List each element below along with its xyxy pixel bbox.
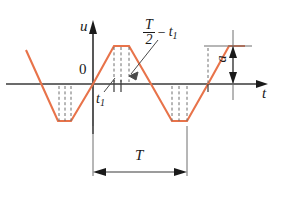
period-arrow-right-icon bbox=[174, 168, 187, 176]
origin-label: 0 bbox=[79, 62, 87, 77]
subtracted-term: t1 bbox=[169, 25, 178, 41]
leader-arrow-icon bbox=[129, 72, 138, 80]
period-label: T bbox=[135, 148, 143, 163]
amplitude-arrow-up-icon bbox=[229, 46, 237, 58]
amplitude-label: a bbox=[215, 56, 229, 63]
period-arrow-left-icon bbox=[93, 168, 106, 176]
fraction-numerator: T bbox=[143, 18, 155, 32]
figure-canvas: u t 0 T a t1 T2−t1 bbox=[0, 0, 283, 199]
amplitude-arrow-down-icon bbox=[229, 72, 237, 84]
t-axis bbox=[6, 80, 268, 88]
half-period-fraction: T2 bbox=[143, 18, 155, 48]
amplitude-dimension bbox=[204, 30, 252, 100]
minus-operator: − bbox=[155, 26, 169, 40]
time-marker-subscript: 1 bbox=[100, 97, 105, 108]
subtracted-term-subscript: 1 bbox=[173, 30, 178, 41]
u-axis-arrow-icon bbox=[89, 20, 97, 34]
time-marker-label: t1 bbox=[96, 92, 105, 108]
half-period-expression: T2−t1 bbox=[143, 18, 178, 48]
t-axis-label: t bbox=[262, 86, 266, 101]
waveform-plot bbox=[0, 0, 283, 199]
axis-ticks bbox=[114, 80, 208, 92]
u-axis-label: u bbox=[80, 19, 88, 34]
fraction-denominator: 2 bbox=[143, 32, 155, 47]
